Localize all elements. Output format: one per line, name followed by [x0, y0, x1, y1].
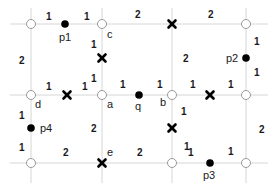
- label-c: c: [107, 28, 113, 40]
- node: [242, 159, 251, 168]
- label-p2: p2: [226, 52, 238, 64]
- label-p4: p4: [40, 122, 52, 134]
- edge-weight: 1: [228, 146, 234, 157]
- edge-weight: 1: [91, 73, 97, 84]
- label-a: a: [107, 98, 114, 110]
- edge-weight: 1: [46, 11, 52, 22]
- label-p3: p3: [203, 169, 215, 181]
- edge-weight: 1: [19, 142, 25, 153]
- edge-weight: 1: [188, 147, 194, 158]
- edge-weight: 1: [181, 106, 187, 117]
- point-p3: [206, 159, 214, 167]
- edge-weight: 1: [157, 79, 163, 90]
- node: [27, 159, 36, 168]
- edge-weight: 1: [190, 79, 196, 90]
- node-c: [98, 20, 107, 29]
- edge-weight: 1: [254, 36, 260, 47]
- edge-weight: 2: [91, 123, 97, 134]
- node-b: [168, 91, 177, 100]
- edge-weight: 2: [137, 147, 143, 158]
- grid-diagram: p1 c p2 d a q b p4 e p3 1122212111111111…: [0, 0, 279, 191]
- label-d: d: [35, 98, 41, 110]
- label-p1: p1: [59, 31, 71, 43]
- node: [242, 91, 251, 100]
- edge-weight: 1: [228, 79, 234, 90]
- edge-weight: 2: [208, 9, 214, 20]
- edge-weight: 2: [19, 55, 25, 66]
- point-q: [135, 91, 143, 99]
- edge-weights: 11222121111111111121222111: [19, 9, 265, 158]
- point-p1: [61, 20, 69, 28]
- edge-weight: 2: [259, 124, 265, 135]
- labels: p1 c p2 d a q b p4 e p3: [35, 28, 238, 181]
- edge-weight: 1: [91, 39, 97, 50]
- edge-weight: 2: [183, 53, 189, 64]
- edge-weight: 2: [135, 9, 141, 20]
- edge-weight: 1: [19, 110, 25, 121]
- point-p2: [242, 54, 250, 62]
- label-b: b: [160, 96, 166, 108]
- label-e: e: [107, 146, 113, 158]
- edge-weight: 1: [120, 79, 126, 90]
- edge-weight: 1: [46, 81, 52, 92]
- node: [242, 20, 251, 29]
- edge-weight: 2: [63, 147, 69, 158]
- edge-weight: 1: [82, 81, 88, 92]
- node-a: [98, 91, 107, 100]
- node: [27, 20, 36, 29]
- edge-weight: 1: [254, 67, 260, 78]
- label-q: q: [135, 100, 141, 112]
- edge-weight: 1: [84, 11, 90, 22]
- point-p4: [27, 124, 35, 132]
- node: [168, 159, 177, 168]
